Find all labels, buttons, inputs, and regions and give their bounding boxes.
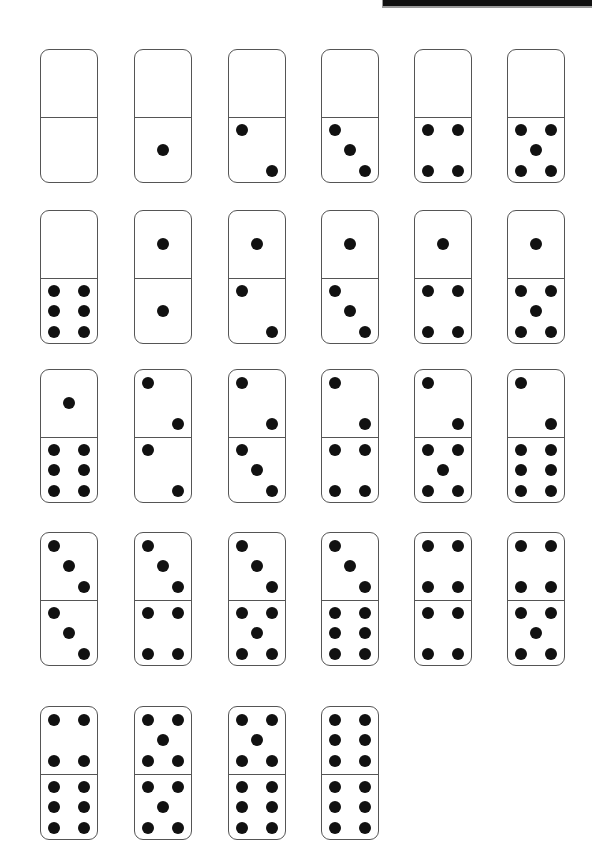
pip-icon: [251, 627, 263, 639]
pip-icon: [515, 326, 527, 338]
pip-icon: [251, 560, 263, 572]
pip-icon: [545, 444, 557, 456]
pip-icon: [344, 305, 356, 317]
pip-icon: [157, 144, 169, 156]
pip-icon: [452, 285, 464, 297]
pip-icon: [329, 734, 341, 746]
pip-icon: [422, 485, 434, 497]
pip-icon: [48, 326, 60, 338]
pip-icon: [48, 714, 60, 726]
domino-half-bottom: [135, 600, 191, 666]
pip-icon: [78, 285, 90, 297]
domino-4-5: [507, 532, 565, 666]
domino-half-top: [41, 370, 97, 437]
pip-icon: [142, 648, 154, 660]
domino-4-4: [414, 532, 472, 666]
domino-half-bottom: [322, 600, 378, 666]
pip-icon: [142, 377, 154, 389]
pip-icon: [78, 648, 90, 660]
pip-icon: [452, 607, 464, 619]
pip-icon: [157, 734, 169, 746]
pip-icon: [452, 444, 464, 456]
pip-icon: [172, 581, 184, 593]
pip-icon: [359, 801, 371, 813]
pip-icon: [545, 124, 557, 136]
pip-icon: [78, 822, 90, 834]
pip-icon: [452, 326, 464, 338]
domino-half-bottom: [508, 117, 564, 183]
pip-icon: [142, 781, 154, 793]
domino-0-2: [228, 49, 286, 183]
pip-icon: [359, 326, 371, 338]
pip-icon: [78, 485, 90, 497]
pip-icon: [452, 165, 464, 177]
pip-icon: [422, 607, 434, 619]
pip-icon: [251, 734, 263, 746]
domino-half-bottom: [229, 774, 285, 840]
domino-half-bottom: [229, 437, 285, 503]
pip-icon: [329, 648, 341, 660]
pip-icon: [251, 464, 263, 476]
pip-icon: [142, 607, 154, 619]
domino-3-3: [40, 532, 98, 666]
pip-icon: [515, 165, 527, 177]
domino-half-top: [229, 370, 285, 437]
domino-1-3: [321, 210, 379, 344]
pip-icon: [329, 444, 341, 456]
pip-icon: [359, 755, 371, 767]
pip-icon: [236, 714, 248, 726]
pip-icon: [515, 444, 527, 456]
pip-icon: [157, 560, 169, 572]
pip-icon: [545, 648, 557, 660]
top-bar: [382, 0, 592, 8]
pip-icon: [236, 377, 248, 389]
domino-0-0: [40, 49, 98, 183]
pip-icon: [266, 801, 278, 813]
domino-half-bottom: [41, 774, 97, 840]
pip-icon: [266, 165, 278, 177]
domino-half-top: [229, 50, 285, 117]
domino-half-bottom: [322, 278, 378, 344]
pip-icon: [142, 540, 154, 552]
domino-6-6: [321, 706, 379, 840]
domino-half-top: [508, 533, 564, 600]
pip-icon: [545, 418, 557, 430]
pip-icon: [172, 485, 184, 497]
pip-icon: [236, 648, 248, 660]
domino-half-bottom: [135, 278, 191, 344]
pip-icon: [142, 714, 154, 726]
domino-half-bottom: [415, 278, 471, 344]
domino-3-5: [228, 532, 286, 666]
pip-icon: [344, 560, 356, 572]
pip-icon: [157, 305, 169, 317]
pip-icon: [359, 485, 371, 497]
pip-icon: [515, 464, 527, 476]
pip-icon: [515, 540, 527, 552]
domino-half-top: [41, 211, 97, 278]
pip-icon: [359, 607, 371, 619]
pip-icon: [329, 714, 341, 726]
pip-icon: [452, 581, 464, 593]
pip-icon: [266, 418, 278, 430]
pip-icon: [236, 540, 248, 552]
domino-half-top: [41, 50, 97, 117]
pip-icon: [422, 444, 434, 456]
pip-icon: [545, 581, 557, 593]
pip-icon: [142, 755, 154, 767]
domino-half-top: [41, 707, 97, 774]
domino-half-top: [322, 533, 378, 600]
pip-icon: [329, 801, 341, 813]
domino-half-top: [135, 50, 191, 117]
pip-icon: [236, 822, 248, 834]
pip-icon: [172, 418, 184, 430]
pip-icon: [266, 648, 278, 660]
pip-icon: [142, 822, 154, 834]
pip-icon: [545, 285, 557, 297]
domino-half-bottom: [508, 600, 564, 666]
pip-icon: [48, 822, 60, 834]
pip-icon: [48, 485, 60, 497]
pip-icon: [329, 377, 341, 389]
pip-icon: [515, 607, 527, 619]
pip-icon: [422, 581, 434, 593]
domino-half-top: [322, 370, 378, 437]
